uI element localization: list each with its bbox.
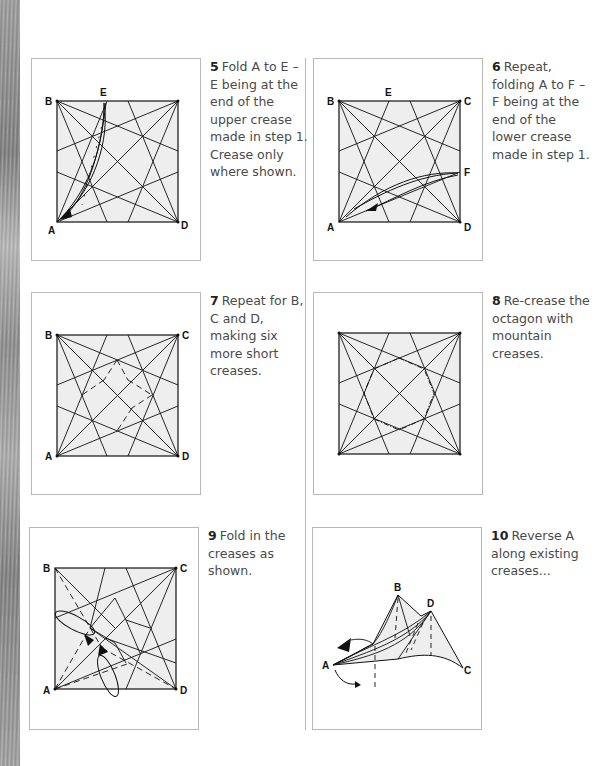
step-6-diagram: B E C F A D bbox=[313, 58, 483, 261]
label-f: F bbox=[464, 167, 470, 178]
label-c: C bbox=[182, 330, 189, 341]
step-number: 6 bbox=[492, 59, 501, 74]
label-b: B bbox=[43, 563, 50, 574]
label-d: D bbox=[464, 222, 471, 233]
step-number: 5 bbox=[210, 59, 219, 74]
step-text: Repeat, folding A to F – F being at the … bbox=[492, 59, 590, 162]
step-8-caption: 8Re-crease the octagon with mountain cre… bbox=[492, 292, 592, 362]
label-b: B bbox=[45, 330, 52, 341]
page-edge-texture bbox=[0, 0, 20, 766]
folded-model-10: B D A C bbox=[313, 528, 483, 731]
label-d: D bbox=[427, 598, 434, 609]
step-9-diagram: B C A D bbox=[29, 527, 199, 730]
crease-pattern-5: B E A D bbox=[32, 59, 202, 262]
label-a: A bbox=[327, 222, 334, 233]
step-text: Re-crease the octagon with mountain crea… bbox=[492, 293, 590, 361]
crease-pattern-8 bbox=[314, 293, 484, 496]
label-b: B bbox=[394, 582, 401, 593]
step-7-caption: 7Repeat for B, C and D, making six more … bbox=[210, 292, 310, 380]
label-e: E bbox=[385, 87, 392, 98]
step-5-diagram: B E A D bbox=[31, 58, 201, 261]
step-text: Fold in the creases as shown. bbox=[208, 528, 285, 578]
crease-pattern-9: B C A D bbox=[30, 528, 200, 731]
step-8-diagram bbox=[313, 292, 483, 495]
step-6-caption: 6Repeat, folding A to F – F being at the… bbox=[492, 58, 592, 163]
label-d: D bbox=[182, 451, 189, 462]
label-c: C bbox=[464, 665, 471, 676]
label-d: D bbox=[180, 685, 187, 696]
crease-pattern-7: B C A D bbox=[32, 293, 202, 496]
label-a: A bbox=[45, 451, 52, 462]
step-7-diagram: B C A D bbox=[31, 292, 201, 495]
step-text: Fold A to E – E being at the end of the … bbox=[210, 59, 308, 179]
label-c: C bbox=[464, 96, 471, 107]
step-5-caption: 5Fold A to E – E being at the end of the… bbox=[210, 58, 310, 181]
label-a: A bbox=[43, 685, 50, 696]
step-10-diagram: B D A C bbox=[312, 527, 482, 730]
step-9-caption: 9Fold in the creases as shown. bbox=[208, 527, 308, 580]
step-10-caption: 10Reverse A along existing creases... bbox=[491, 527, 591, 580]
label-b: B bbox=[327, 96, 334, 107]
label-a: A bbox=[48, 225, 55, 236]
step-number: 7 bbox=[210, 293, 219, 308]
label-b: B bbox=[45, 96, 52, 107]
label-a: A bbox=[322, 660, 329, 671]
step-number: 9 bbox=[208, 528, 217, 543]
label-c: C bbox=[180, 563, 187, 574]
label-e: E bbox=[100, 87, 107, 98]
label-d: D bbox=[181, 220, 188, 231]
step-text: Repeat for B, C and D, making six more s… bbox=[210, 293, 303, 378]
step-number: 8 bbox=[492, 293, 501, 308]
step-number: 10 bbox=[491, 528, 508, 543]
crease-pattern-6: B E C F A D bbox=[314, 59, 484, 262]
